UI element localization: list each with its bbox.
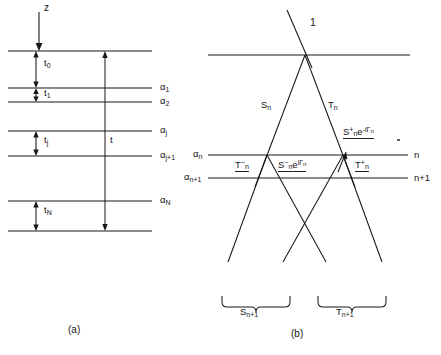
interface-label-alpha-j1: αj+1 <box>160 150 175 161</box>
thickness-label-tN: tN <box>44 205 52 216</box>
interface-right-label-n: n <box>414 150 419 160</box>
interface-label-alpha-1: α1 <box>160 82 169 93</box>
interface-label-alpha-N: αN <box>160 195 171 206</box>
thickness-arrows <box>33 51 38 231</box>
interface-label-alpha-n: αn <box>193 149 202 160</box>
thickness-arrow-t0 <box>33 51 38 88</box>
interface-label-alpha-2: α2 <box>160 96 169 107</box>
thickness-arrow-tj <box>33 131 38 156</box>
thickness-label-tj: tj <box>44 135 48 146</box>
panel-a-interfaces <box>8 51 152 231</box>
z-axis-label: z <box>44 3 49 13</box>
panel-b-caption: (b) <box>291 328 303 339</box>
incident-ray-label: 1 <box>310 17 316 28</box>
thickness-arrow-tN <box>33 201 38 231</box>
amplitude-label-S-minus-n-exp: S−neiΓn <box>278 159 306 172</box>
thickness-label-t0: t0 <box>44 58 51 69</box>
ray-label-T-n: Tn <box>328 100 338 111</box>
z-axis-arrow <box>36 12 43 51</box>
amplitude-label-T-minus-n: T−n <box>235 159 249 172</box>
panel-a-caption: (a) <box>68 324 80 335</box>
amplitude-label-S-plus-n-exp: S+ne-iΓn <box>343 126 374 139</box>
interface-right-label-n1: n+1 <box>414 173 430 183</box>
ray-incident <box>287 10 312 68</box>
amplitude-label-T-plus-n: T+n <box>355 159 369 172</box>
brace-label-S-n-plus-1: Sn+1 <box>240 307 258 318</box>
total-thickness-arrow <box>102 51 107 231</box>
figure-canvas <box>0 0 441 355</box>
ray-label-S-n: Sn <box>261 100 271 111</box>
interface-label-alpha-n1: αn+1 <box>184 172 201 183</box>
total-thickness-label: t <box>110 135 113 145</box>
brace-label-T-n-plus-1: Tn+1 <box>336 307 354 318</box>
thickness-arrow-t1 <box>33 88 38 102</box>
interface-label-alpha-j: αj <box>160 125 167 136</box>
thickness-label-t1: t1 <box>44 88 51 99</box>
